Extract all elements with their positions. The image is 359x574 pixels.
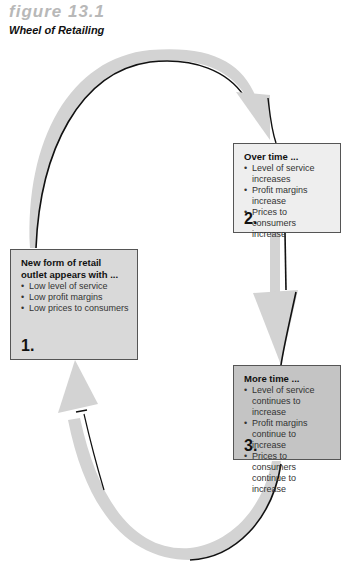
stage-1-bullets: Low level of service Low profit margins … — [21, 281, 129, 314]
stage-1-number: 1. — [21, 337, 34, 355]
stage-1-box: New form of retail outlet appears with .… — [10, 249, 138, 360]
stage-1-heading: New form of retail outlet appears with .… — [21, 257, 129, 281]
bullet-item: Profit margins increase — [244, 185, 332, 207]
bullet-item: Low prices to consumers — [21, 303, 129, 314]
stage-2-box: Over time ... Level of service increases… — [233, 143, 341, 233]
bullet-item: Level of service increases — [244, 163, 332, 185]
stage-2-number: 2. — [244, 210, 257, 228]
arrow-2-to-3 — [253, 233, 298, 365]
stage-2-bullets: Level of service increases Profit margin… — [244, 163, 332, 240]
bullet-item: Prices to consumers continue to increase — [244, 451, 332, 495]
stage-2-heading: Over time ... — [244, 151, 332, 163]
stage-3-number: 3. — [244, 437, 257, 455]
bullet-item: Low profit margins — [21, 292, 129, 303]
bullet-item: Level of service continues to increase — [244, 385, 332, 418]
stage-3-heading: More time ... — [244, 373, 332, 385]
stage-3-box: More time ... Level of service continues… — [233, 365, 341, 460]
bullet-item: Low level of service — [21, 281, 129, 292]
